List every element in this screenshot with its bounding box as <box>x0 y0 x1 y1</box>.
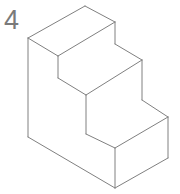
figure-container: 4 <box>0 0 180 194</box>
isometric-staircase-drawing <box>0 0 180 194</box>
solid-faces-group <box>28 6 168 188</box>
